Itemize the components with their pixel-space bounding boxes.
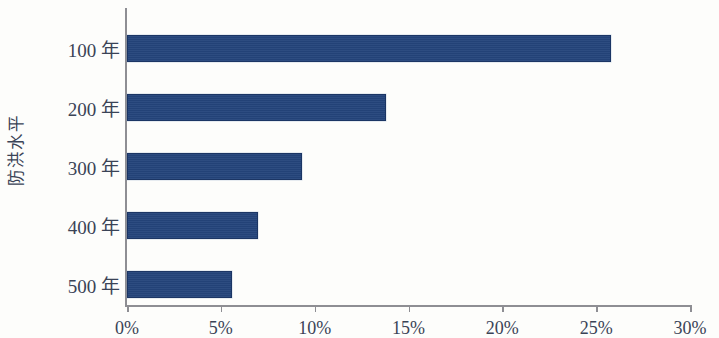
x-tick-label-0: 0% (115, 318, 139, 338)
x-tick-6 (690, 305, 692, 312)
x-tick-label-4: 20% (486, 318, 519, 338)
x-tick-4 (502, 305, 504, 312)
x-tick-5 (596, 305, 598, 312)
bar-chart: 防洪水平 100 年 200 年 300 年 400 年 500 年 0% 5%… (0, 0, 719, 338)
x-tick-1 (221, 305, 223, 312)
x-tick-label-6: 30% (674, 318, 707, 338)
category-label-1: 200 年 (8, 94, 120, 121)
x-tick-label-5: 25% (580, 318, 613, 338)
x-tick-label-1: 5% (209, 318, 233, 338)
x-tick-label-3: 15% (392, 318, 425, 338)
x-tick-2 (315, 305, 317, 312)
category-label-2: 300 年 (8, 153, 120, 180)
category-label-0: 100 年 (8, 35, 120, 62)
category-label-3: 400 年 (8, 212, 120, 239)
x-axis: 0% 5% 10% 15% 20% 25% 30% (127, 8, 690, 338)
category-label-4: 500 年 (8, 271, 120, 298)
x-tick-0 (127, 305, 129, 312)
x-tick-3 (409, 305, 411, 312)
x-tick-label-2: 10% (298, 318, 331, 338)
category-axis-labels: 100 年 200 年 300 年 400 年 500 年 (8, 8, 120, 305)
